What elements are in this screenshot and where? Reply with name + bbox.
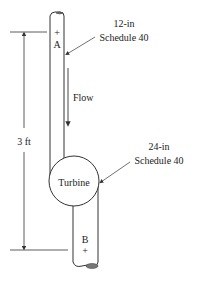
dimension-label: 3 ft (17, 136, 31, 147)
pipe-turbine-diagram: 3 ft + A Flow 12-in Schedule 40 Turbine … (0, 0, 197, 284)
lower-pipe-leader (101, 162, 130, 182)
upper-pipe-schedule-label: Schedule 40 (99, 32, 148, 43)
point-a-label: A (53, 39, 61, 50)
turbine-label: Turbine (58, 177, 90, 188)
lower-pipe-schedule-label: Schedule 40 (134, 155, 183, 166)
point-b-label: B (82, 234, 89, 245)
flow-label: Flow (73, 92, 94, 103)
lower-pipe-size-label: 24-in (148, 141, 169, 152)
upper-pipe-size-label: 12-in (113, 18, 134, 29)
point-b-marker: + (82, 245, 88, 256)
upper-pipe-leader (67, 37, 95, 54)
point-a-marker: + (54, 27, 60, 38)
